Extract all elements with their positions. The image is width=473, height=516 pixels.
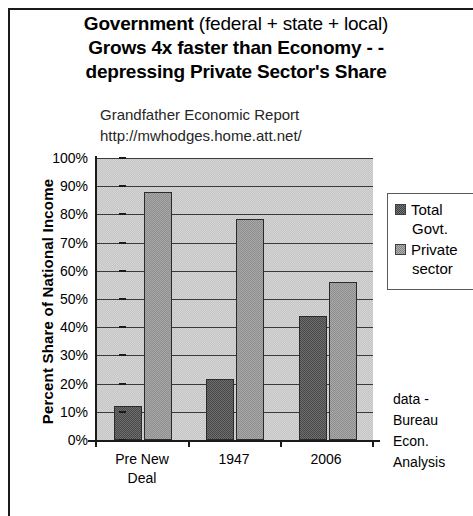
y-tick-mark-70: [119, 242, 126, 244]
title-emphasis: Government: [84, 13, 194, 34]
source-note-line3: Econ.: [393, 431, 473, 452]
x-label-pre-new-deal-line1: Pre New: [96, 450, 188, 469]
chart-legend: Total Govt. Private sector: [387, 193, 473, 290]
legend-row-total-govt: Total: [395, 200, 473, 219]
y-tick-mark-100: [119, 157, 126, 159]
bar-private-sector-2006: [329, 282, 357, 440]
y-tick-mark-20: [119, 383, 126, 385]
y-tick-label-80: 80%: [32, 207, 88, 221]
bar-total-govt-1947: [206, 379, 234, 440]
y-tick-mark-80: [119, 213, 126, 215]
x-label-2006-line1: 2006: [280, 450, 372, 469]
x-tick-1: [188, 440, 190, 447]
y-axis-line: [95, 156, 97, 442]
x-tick-3: [372, 440, 374, 447]
source-note: data - Bureau Econ. Analysis: [393, 389, 473, 473]
y-tick-mark-40: [119, 326, 126, 328]
source-note-line2: Bureau: [393, 410, 473, 431]
y-tick-mark-30: [119, 354, 126, 356]
x-tick-2: [280, 440, 282, 447]
chart-subtitle: Grandfather Economic Report http://mwhod…: [100, 104, 420, 146]
legend-label-total-govt-line2: Govt.: [395, 219, 473, 238]
subtitle-url: http://mwhodges.home.att.net/: [100, 125, 420, 146]
bar-private-sector-pre-new-deal: [144, 192, 172, 440]
y-axis-tick-labels: 100%90%80%70%60%50%40%30%20%10%0%: [30, 0, 88, 516]
chart-figure: Government (federal + state + local) Gro…: [0, 0, 473, 516]
legend-label-private-sector-line1: Private: [411, 240, 458, 259]
y-tick-mark-90: [119, 185, 126, 187]
y-tick-mark-50: [119, 298, 126, 300]
y-tick-label-10: 10%: [32, 405, 88, 419]
legend-label-total-govt-line1: Total: [411, 200, 443, 219]
x-label-pre-new-deal: Pre New Deal: [96, 450, 188, 488]
y-tick-label-30: 30%: [32, 348, 88, 362]
x-tick-0: [95, 440, 97, 447]
x-label-2006: 2006: [280, 450, 372, 469]
legend-swatch-icon-private-sector: [395, 244, 406, 255]
legend-entry-private-sector: Private sector: [395, 240, 473, 278]
y-tick-label-60: 60%: [32, 264, 88, 278]
x-axis-line: [88, 440, 380, 442]
source-note-line1: data -: [393, 389, 473, 410]
bars-layer: [96, 158, 373, 440]
y-tick-mark-10: [119, 411, 126, 413]
x-label-1947: 1947: [188, 450, 280, 469]
y-tick-mark-0: [119, 439, 126, 441]
legend-label-private-sector-line2: sector: [395, 259, 473, 278]
y-tick-label-20: 20%: [32, 377, 88, 391]
y-tick-label-90: 90%: [32, 179, 88, 193]
y-tick-label-50: 50%: [32, 292, 88, 306]
y-tick-label-40: 40%: [32, 320, 88, 334]
title-line-1-rest: (federal + state + local): [194, 13, 388, 34]
x-label-1947-line1: 1947: [188, 450, 280, 469]
y-tick-mark-60: [119, 270, 126, 272]
y-tick-label-70: 70%: [32, 236, 88, 250]
legend-swatch-icon-total-govt: [395, 204, 406, 215]
bar-private-sector-1947: [236, 219, 264, 440]
legend-row-private-sector: Private: [395, 240, 473, 259]
subtitle-report-name: Grandfather Economic Report: [100, 104, 420, 125]
y-tick-label-100: 100%: [32, 151, 88, 165]
bar-total-govt-2006: [299, 316, 327, 440]
source-note-line4: Analysis: [393, 452, 473, 473]
x-label-pre-new-deal-line2: Deal: [96, 469, 188, 488]
legend-entry-total-govt: Total Govt.: [395, 200, 473, 238]
plot-area: [96, 158, 373, 440]
y-tick-label-0: 0%: [32, 433, 88, 447]
